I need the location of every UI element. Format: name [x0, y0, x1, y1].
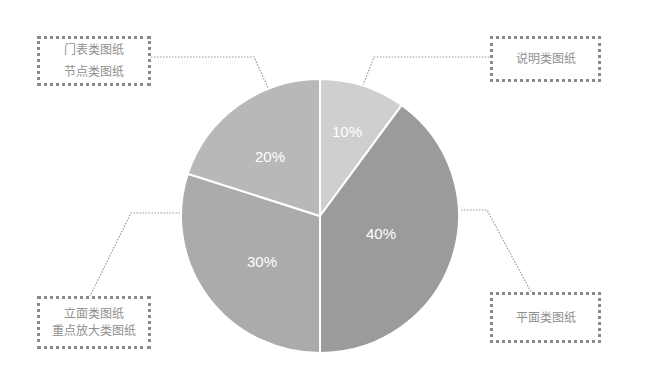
callout-text: 节点类图纸 [64, 64, 124, 80]
slice-label-20: 20% [255, 148, 285, 165]
callout-box-description-drawings: 说明类图纸 [490, 36, 601, 82]
slice-label-10: 10% [332, 123, 362, 140]
callout-text: 重点放大类图纸 [52, 323, 136, 339]
callout-box-door-schedule-and-details: 门表类图纸 节点类图纸 [37, 36, 151, 86]
callout-box-plan-drawings: 平面类图纸 [490, 292, 601, 343]
leader-line-bottom-right [461, 210, 531, 292]
callout-text: 说明类图纸 [516, 51, 576, 67]
leader-line-bottom-left [90, 213, 183, 296]
leader-line-top-right [362, 57, 490, 88]
callout-text: 平面类图纸 [516, 310, 576, 326]
pie-slices [181, 79, 459, 353]
callout-text: 门表类图纸 [64, 42, 124, 58]
slice-label-40: 40% [366, 225, 396, 242]
slice-label-30: 30% [247, 253, 277, 270]
callout-box-elevation-and-enlarged: 立面类图纸 重点放大类图纸 [37, 296, 151, 349]
leader-line-top-left [151, 57, 269, 90]
callout-text: 立面类图纸 [64, 306, 124, 322]
